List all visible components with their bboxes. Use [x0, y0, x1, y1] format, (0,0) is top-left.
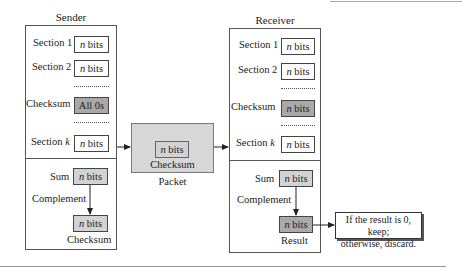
- arrows-layer: [0, 0, 462, 272]
